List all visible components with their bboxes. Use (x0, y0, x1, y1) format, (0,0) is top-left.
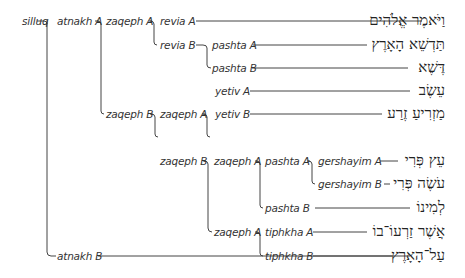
leaf-hebrew: עֵץ פְּרִי (405, 152, 445, 168)
node-yetiv-a: yetiv A (215, 85, 250, 97)
node-pashta-b: pashta B (212, 62, 257, 74)
node-pashta-a: pashta A (212, 39, 257, 51)
node-gershayim-b: gershayim B (318, 178, 382, 190)
leaf-hebrew: לְמִינוֹ (416, 199, 445, 215)
node-pashta-a: pashta A (265, 155, 310, 167)
node-atnakh-a: atnakh A (57, 15, 102, 27)
leaf-hebrew: עַל־הָאָרֶץ (391, 247, 445, 263)
node-silluq: silluq (22, 15, 48, 27)
node-revia-b: revia B (160, 39, 195, 51)
leaf-hebrew: דֶּשֶׁא (418, 59, 445, 75)
node-zaqeph-a: zaqeph A (214, 226, 261, 238)
node-zaqeph-b: zaqeph B (160, 155, 207, 167)
leaf-hebrew: עֹשֶׂה פְּרִי (393, 175, 445, 191)
node-zaqeph-b: zaqeph B (106, 108, 153, 120)
node-gershayim-a: gershayim A (318, 155, 382, 167)
leaf-hebrew: אֲשֶׁר זַרְעוֹ־בוֹ (373, 223, 445, 239)
node-tiphkha-a: tiphkha A (265, 226, 313, 238)
leaf-hebrew: מַזְרִיעַ זֶרַע (387, 105, 445, 121)
node-zaqeph-a: zaqeph A (106, 15, 153, 27)
node-revia-a: revia A (160, 15, 195, 27)
node-zaqeph-a: zaqeph A (214, 155, 261, 167)
leaf-hebrew: עֵשֶׂב (419, 82, 445, 98)
leaf-hebrew: תַּדְשֵׁא הָאָרֶץ (371, 36, 445, 52)
leaf-hebrew: וַיֹּאמֶר אֱלֹהִים (369, 12, 445, 28)
node-yetiv-b: yetiv B (215, 108, 250, 120)
node-zaqeph-a: zaqeph A (160, 108, 207, 120)
node-pashta-b: pashta B (265, 202, 310, 214)
silluq-bracket (37, 21, 56, 256)
node-tiphkha-b: tiphkha B (265, 250, 313, 262)
node-atnakh-b: atnakh B (57, 250, 102, 262)
